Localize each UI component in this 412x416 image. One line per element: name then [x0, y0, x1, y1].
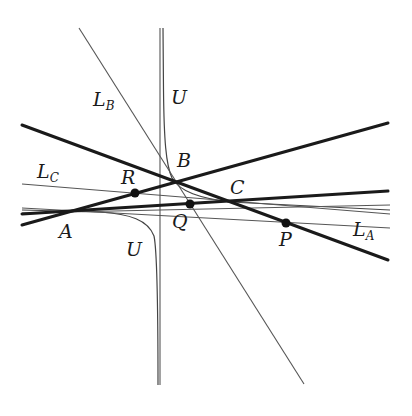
label-LC: LC: [36, 160, 59, 185]
label-B: B: [176, 149, 191, 171]
geometry-diagram: LB U B LC R C A Q P LA U: [0, 0, 412, 416]
point-Q: [186, 200, 195, 209]
thick-line-BP: [22, 125, 388, 260]
label-Q: Q: [172, 210, 188, 232]
point-P: [282, 219, 291, 228]
label-A: A: [57, 220, 73, 242]
label-P: P: [278, 228, 293, 250]
point-R: [131, 189, 140, 198]
label-LB: LB: [92, 88, 115, 113]
hyperbola-u-upper-branch: [163, 28, 390, 210]
hyperbola-u-lower-branch: [22, 210, 158, 385]
label-C: C: [230, 176, 245, 198]
label-R: R: [120, 166, 135, 188]
label-U-bottom: U: [126, 238, 143, 260]
label-LA: LA: [352, 218, 375, 243]
thick-line-AC: [22, 191, 388, 214]
label-U-top: U: [171, 86, 188, 108]
